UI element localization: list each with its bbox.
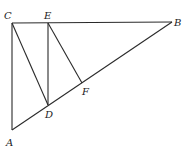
segment-CD	[12, 23, 48, 105]
label-C: C	[4, 10, 12, 21]
geometry-diagram: C E B A D F	[0, 0, 184, 150]
segment-AB	[12, 22, 172, 130]
label-B: B	[173, 17, 181, 28]
label-F: F	[81, 86, 90, 97]
label-E: E	[43, 10, 52, 21]
segment-CB	[12, 22, 172, 23]
segment-EF	[48, 23, 82, 83]
label-A: A	[5, 137, 13, 148]
label-D: D	[44, 109, 53, 120]
